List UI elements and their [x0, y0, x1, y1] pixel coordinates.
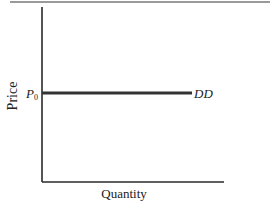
price-tick-label: P0 — [25, 86, 38, 102]
price-tick-main: P — [25, 86, 34, 101]
y-axis-label: Price — [5, 82, 20, 111]
price-tick-subscript: 0 — [34, 93, 38, 102]
curve-label-dd: DD — [193, 86, 213, 101]
x-axis-label: Quantity — [101, 186, 147, 201]
demand-chart: Price P0 DD Quantity — [0, 0, 274, 211]
